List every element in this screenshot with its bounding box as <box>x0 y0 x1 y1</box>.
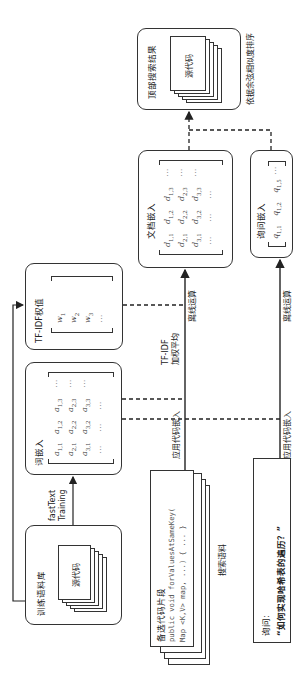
top-results-box: 顶部搜索结果 源代码 <box>137 28 241 110</box>
matrix-cell: a1,1 <box>52 442 63 456</box>
training-corpus-title: 训练语料库 <box>34 571 46 616</box>
matrix-cell: d1,3 <box>163 187 174 201</box>
doc-stack-icon: 源代码 <box>58 545 91 600</box>
query-embedding-title: 询问嵌入 <box>254 203 266 239</box>
cosine-similarity-caption: 依据余弦相似度排序 <box>246 33 256 105</box>
matrix-cell: d2,1 <box>177 233 188 247</box>
word-embedding-matrix: a1,1 a1,2 a1,3 ⋯ a2,1 a2,2 a2,3 ⋯ a3,1 a… <box>48 372 114 464</box>
matrix-cell: d1,1 <box>163 233 174 247</box>
document-embedding-title: 文档嵌入 <box>144 203 156 239</box>
source-code-label: 源代码 <box>70 563 81 587</box>
query-text: “如何实现哈希表的遍历？” <box>274 526 286 636</box>
vector-cell: w2 <box>69 313 80 323</box>
source-code-label: 源代码 <box>183 54 194 78</box>
matrix-cell: d2,2 <box>177 210 188 224</box>
tfidf-vector: w1 w2 w3 ⋯ <box>51 276 113 333</box>
document-embedding-matrix: d1,1 d1,2 d1,3 ⋯ d2,1 d2,2 d2,3 ⋯ d3,1 d… <box>159 160 223 255</box>
matrix-cell: a3,3 <box>80 398 91 412</box>
matrix-cell: d3,1 <box>191 233 202 247</box>
tfidf-weights-title: TF-IDF权值 <box>32 298 44 343</box>
diagram-canvas: 训练语料库 源代码 fastText Training 词嵌入 a1,1 a1,… <box>0 0 303 691</box>
matrix-cell: a1,3 <box>52 398 63 412</box>
matrix-cell: d3,3 <box>191 187 202 201</box>
word-embedding-title: 词嵌入 <box>32 439 44 466</box>
query-box: 询问: “如何实现哈希表的遍历？” <box>253 458 291 643</box>
matrix-cell: a3,2 <box>80 420 91 434</box>
tfidf-weighted-average-label: TF-IDF 加权平均 <box>161 333 181 365</box>
candidate-snippets-title: 备选代码片段 <box>154 588 166 642</box>
offline-compute-label-bottom: 离线运算 <box>283 290 293 322</box>
code-line-2: Map <K,V> map, ...) { ... } <box>178 525 187 642</box>
training-corpus-box: 训练语料库 源代码 <box>25 525 122 625</box>
vector-cell: q1,5 <box>271 179 282 193</box>
apply-code-embedding-label-bottom: 应用代码嵌入 <box>283 411 293 459</box>
document-embedding-box: 文档嵌入 d1,1 d1,2 d1,3 ⋯ d2,1 d2,2 d2,3 ⋯ d… <box>138 150 233 268</box>
matrix-cell: d2,3 <box>177 187 188 201</box>
search-corpus-caption: 搜索语料 <box>218 544 228 576</box>
matrix-cell: a3,1 <box>80 442 91 456</box>
top-results-title: 顶部搜索结果 <box>145 45 157 99</box>
matrix-cell: a1,2 <box>52 420 63 434</box>
word-embedding-box: 词嵌入 a1,1 a1,2 a1,3 ⋯ a2,1 a2,2 a2,3 ⋯ a3… <box>25 362 122 475</box>
query-embedding-vector: q1,1 q1,2 q1,5 ⋯ <box>268 161 286 247</box>
vector-cell: q1,2 <box>271 202 282 216</box>
offline-compute-label-top: 离线运算 <box>188 290 198 322</box>
matrix-cell: a2,1 <box>66 442 77 456</box>
tfidf-weights-box: TF-IDF权值 w1 w2 w3 ⋯ <box>25 263 123 350</box>
matrix-cell: d3,2 <box>191 210 202 224</box>
query-label: 询问: <box>259 615 271 636</box>
doc-stack-icon: 源代码 <box>170 36 206 91</box>
matrix-cell: d1,2 <box>163 210 174 224</box>
code-line-1: public void forValuesAtSameKey( <box>167 508 176 642</box>
candidate-snippets-box: 备选代码片段 public void forValuesAtSameKey( M… <box>150 470 194 647</box>
apply-code-embedding-label-top: 应用代码嵌入 <box>172 411 182 459</box>
matrix-cell: a2,3 <box>66 398 77 412</box>
query-embedding-box: 询问嵌入 q1,1 q1,2 q1,5 ⋯ <box>250 150 293 258</box>
matrix-cell: a2,2 <box>66 420 77 434</box>
fasttext-training-label: fastText Training <box>48 489 68 521</box>
vector-cell: q1,1 <box>271 225 282 239</box>
vector-cell: w1 <box>55 313 66 323</box>
vector-cell: w3 <box>83 313 94 323</box>
